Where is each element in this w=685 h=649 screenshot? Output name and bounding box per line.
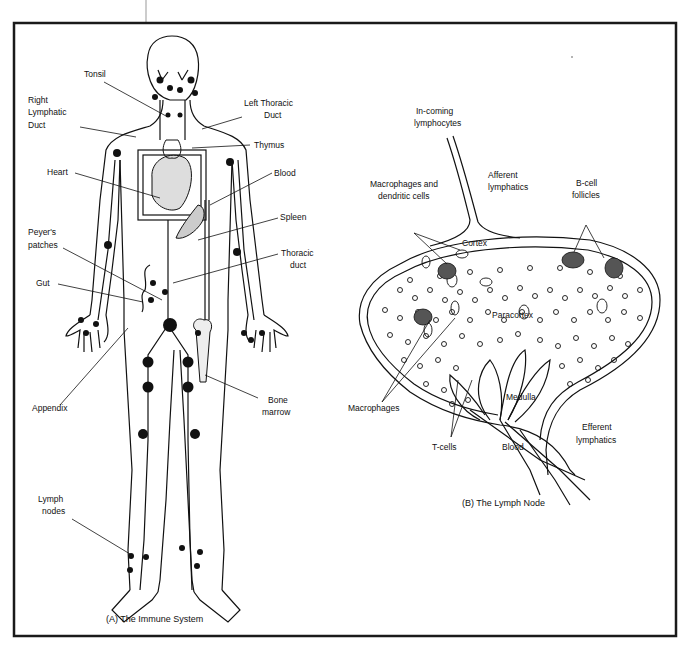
label-incoming-lymphocytes-1: In-coming	[416, 106, 454, 116]
label-bone-marrow-2: marrow	[262, 407, 291, 417]
label-right-lymphatic-duct-1: Right	[28, 95, 48, 105]
label-afferent-lymphatics-2: lymphatics	[488, 182, 528, 192]
label-right-lymphatic-duct-3: Duct	[28, 120, 46, 130]
label-bcell-follicles-1: B-cell	[576, 178, 597, 188]
label-left-thoracic-duct-2: Duct	[264, 110, 282, 120]
label-thymus: Thymus	[254, 140, 284, 150]
panel-b-cells	[383, 250, 643, 407]
label-lymph-nodes-1: Lymph	[38, 494, 63, 504]
label-macrophages: Macrophages	[348, 403, 400, 413]
label-gut: Gut	[36, 278, 50, 288]
label-peyers-patches-1: Peyer's	[28, 227, 56, 237]
label-macrophages-dendritic-2: dendritic cells	[378, 191, 430, 201]
label-paracortex: Paracortex	[492, 310, 534, 320]
label-left-thoracic-duct-1: Left Thoracic	[244, 98, 294, 108]
label-tcells: T-cells	[432, 442, 457, 452]
label-heart: Heart	[47, 167, 68, 177]
label-cortex: Cortex	[462, 238, 488, 248]
label-spleen: Spleen	[280, 212, 307, 222]
label-blood: Blood	[274, 168, 296, 178]
panel-b-labels: In-coming lymphocytes Afferent lymphatic…	[348, 106, 616, 508]
label-tonsil: Tonsil	[84, 69, 106, 79]
label-thoracic-duct-2: duct	[290, 260, 307, 270]
label-bcell-follicles-2: follicles	[572, 190, 600, 200]
figure: Tonsil Right Lymphatic Duct Left Thoraci…	[0, 0, 685, 649]
label-peyers-patches-2: patches	[28, 240, 58, 250]
spleen-shape	[176, 205, 204, 238]
label-medulla: Medulla	[506, 392, 536, 402]
label-blood-b: Blood	[502, 442, 524, 452]
label-efferent-lymphatics-2: lymphatics	[576, 435, 616, 445]
label-lymph-nodes-2: nodes	[42, 506, 65, 516]
stray-dot	[571, 56, 573, 58]
femur-shape	[194, 319, 212, 382]
label-right-lymphatic-duct-2: Lymphatic	[28, 107, 67, 117]
label-appendix: Appendix	[32, 403, 68, 413]
gut-shape	[142, 265, 150, 312]
label-incoming-lymphocytes-2: lymphocytes	[414, 118, 461, 128]
label-bone-marrow-1: Bone	[268, 395, 288, 405]
panel-a-labels: Tonsil Right Lymphatic Duct Left Thoraci…	[28, 69, 314, 624]
caption-panel-a: (A) The Immune System	[106, 614, 203, 624]
panel-a-body-diagram	[66, 36, 288, 622]
heart-shape	[152, 155, 192, 210]
label-macrophages-dendritic-1: Macrophages and	[370, 179, 438, 189]
label-efferent-lymphatics-1: Efferent	[582, 422, 612, 432]
label-thoracic-duct-1: Thoracic	[281, 248, 314, 258]
label-afferent-lymphatics-1: Afferent	[488, 170, 518, 180]
caption-panel-b: (B) The Lymph Node	[462, 498, 545, 508]
